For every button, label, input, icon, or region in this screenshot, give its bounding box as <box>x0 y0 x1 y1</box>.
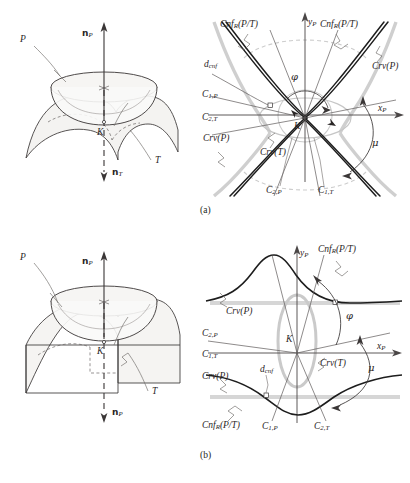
mu-label-b: μ <box>368 363 375 373</box>
origin-label-b: K <box>286 335 292 345</box>
leader-crv-p-left-a <box>218 152 225 167</box>
x-axis-label-a: xP <box>378 104 386 114</box>
panel-b-3d-diagram: nP nP P T K <box>0 245 205 450</box>
normal-t-arrowhead <box>101 172 108 182</box>
leader-cnf-top-right-b <box>335 261 348 276</box>
surface-t-label-b: T <box>152 387 157 397</box>
crv-p-label-right-a: Crv(P) <box>372 62 398 72</box>
phi-angle-arc-b <box>318 281 341 345</box>
mu-label-a: μ <box>372 138 379 148</box>
normal-p-down-arrowhead-b <box>101 413 108 423</box>
cnf-r-label-top-right-b: CnfR(P/T) <box>318 245 356 255</box>
d-cnf-label-a: dcnf <box>204 60 217 70</box>
origin-label-a: K <box>294 122 300 132</box>
d-cnf-node-a <box>268 103 273 108</box>
contact-point-label-a: K <box>97 128 103 138</box>
y-axis-label-a: yP <box>308 18 316 28</box>
leader-c2p-a <box>280 138 292 186</box>
contact-point-marker <box>102 120 105 123</box>
leader-t <box>130 130 151 160</box>
crv-t-label-b: Crv(T) <box>320 359 346 369</box>
mu-arrow-bottom-b <box>331 405 341 412</box>
d-cnf-leader-a <box>212 74 270 106</box>
c2t-label-b: C2,T <box>314 422 329 432</box>
mu-arrow-bottom-a <box>342 173 352 180</box>
caption-a: (a) <box>200 205 211 215</box>
leader-p <box>34 46 60 76</box>
phi-label-a: φ <box>291 72 298 82</box>
cnf-r-label-bottom-left-b: CnfR(P/T) <box>202 421 240 431</box>
panel-b-plot: CnfR(P/T) CnfR(P/T) yP xP Crv(P) Crv(P) … <box>200 245 410 450</box>
d-cnf-label-b: dcnf <box>260 365 273 375</box>
x-axis-label-b: xP <box>377 342 385 352</box>
c2t-label-a: C2,T <box>202 113 217 123</box>
leader-cnf-left-a <box>238 34 250 50</box>
cnf-r-top-curve-b <box>206 255 402 303</box>
normal-p-up-label-b: nP <box>82 257 93 267</box>
c1p-label-b: C1,P <box>262 422 278 432</box>
y-axis-label-b: yP <box>300 249 308 259</box>
crv-t-label-a: Crv(T) <box>260 148 286 158</box>
normal-p-down-label-b: nP <box>112 408 123 418</box>
crv-p-label-lower-b: Crv(P) <box>202 372 228 382</box>
d-cnf-node-b <box>264 393 269 398</box>
cnf-r-label-right-a: CnfR(P/T) <box>320 20 358 30</box>
panel-a-plot: CnfR(P/T) CnfR(P/T) yP xP Crv(P) Crv(P) … <box>200 0 410 205</box>
phi-arc-arrow-b <box>313 275 322 286</box>
panel-a-3d-diagram: nP nT P T K <box>0 0 205 205</box>
c2p-label-b: C2,P <box>202 329 218 339</box>
c2p-label-a: C2,P <box>266 186 282 196</box>
normal-p-label-a: nP <box>82 29 93 39</box>
c1t-label-b: C1,T <box>202 350 217 360</box>
contact-point-marker-b <box>102 340 105 343</box>
surface-p-label-b: P <box>20 253 26 263</box>
contact-point-label-b: K <box>97 347 103 357</box>
surface-t-label-a: T <box>155 156 160 166</box>
c1p-label-a: C1,P <box>202 90 218 100</box>
leader-c1t-a <box>314 138 324 186</box>
leader-d-cnf-b <box>266 375 268 393</box>
c1t-label-a: C1,T <box>318 186 333 196</box>
slab-hidden-edge <box>38 344 118 373</box>
surface-p-label-a: P <box>20 35 26 45</box>
mu-angle-arc-a <box>350 104 373 172</box>
phi-label-b: φ <box>346 311 353 321</box>
leader-cnf-bottom-left-b <box>228 406 242 421</box>
normal-t-label-a: nT <box>112 168 122 178</box>
cnf-r-label-left-a: CnfR(P/T) <box>220 20 258 30</box>
crv-p-label-left-a: Crv(P) <box>203 134 229 144</box>
caption-b: (b) <box>200 450 211 460</box>
crv-p-label-upper-b: Crv(P) <box>226 307 252 317</box>
panel-a-3d-svg <box>0 0 205 205</box>
